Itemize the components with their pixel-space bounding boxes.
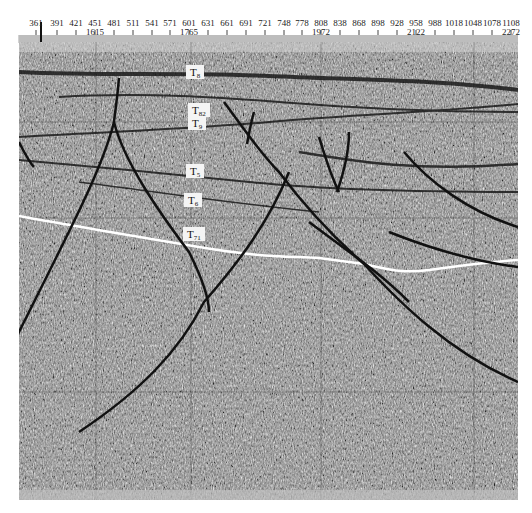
cdp-tick-label: 1972 bbox=[312, 28, 330, 37]
trace-tick-label: 541 bbox=[145, 19, 159, 28]
trace-tick-label: 691 bbox=[239, 19, 253, 28]
trace-tick-label: 721 bbox=[258, 19, 272, 28]
horizon-name: T bbox=[188, 194, 195, 206]
trace-tick-label: 661 bbox=[220, 19, 234, 28]
trace-tick-label: 391 bbox=[50, 19, 64, 28]
trace-tick-label: 868 bbox=[352, 19, 366, 28]
horizon-subscript: 6 bbox=[195, 200, 199, 208]
trace-tick-label: 928 bbox=[390, 19, 404, 28]
cdp-tick-label: 1615 bbox=[86, 28, 104, 37]
trace-tick-label: 361 bbox=[29, 19, 43, 28]
trace-tick-label: 571 bbox=[163, 19, 177, 28]
trace-tick-label: 898 bbox=[371, 19, 385, 28]
cdp-tick-label: 2272 bbox=[502, 28, 520, 37]
trace-tick-label: 631 bbox=[201, 19, 215, 28]
cdp-tick-label: 1765 bbox=[180, 28, 198, 37]
horizon-subscript: 71 bbox=[194, 234, 201, 242]
horizon-name: T bbox=[190, 66, 197, 78]
horizon-label: T5 bbox=[186, 164, 204, 178]
horizon-label: T8 bbox=[186, 65, 204, 79]
seismic-section: T8T82T9T5T6T71 bbox=[19, 42, 518, 500]
trace-tick-label: 1078 bbox=[483, 19, 501, 28]
trace-tick-label: 988 bbox=[428, 19, 442, 28]
horizon-name: T bbox=[190, 165, 197, 177]
trace-tick-label: 748 bbox=[277, 19, 291, 28]
trace-ruler: 3613914214514815115415716016316616917217… bbox=[0, 0, 532, 44]
cdp-tick-label: 2122 bbox=[407, 28, 425, 37]
trace-tick-label: 421 bbox=[69, 19, 83, 28]
trace-tick-label: 481 bbox=[107, 19, 121, 28]
horizon-label: T6 bbox=[184, 193, 202, 207]
trace-tick-label: 1048 bbox=[464, 19, 482, 28]
horizon-subscript: 5 bbox=[197, 171, 201, 179]
horizon-subscript: 9 bbox=[199, 123, 203, 131]
horizon-name: T bbox=[192, 104, 199, 116]
seismic-image bbox=[19, 42, 518, 500]
horizon-name: T bbox=[192, 117, 199, 129]
trace-tick-label: 778 bbox=[295, 19, 309, 28]
horizon-name: T bbox=[187, 228, 194, 240]
horizon-label: T9 bbox=[188, 116, 206, 130]
trace-tick-label: 838 bbox=[333, 19, 347, 28]
trace-tick-label: 511 bbox=[126, 19, 139, 28]
horizon-subscript: 8 bbox=[197, 72, 201, 80]
horizon-label: T71 bbox=[183, 227, 205, 241]
trace-tick-label: 1018 bbox=[445, 19, 463, 28]
horizon-label: T82 bbox=[188, 103, 210, 117]
